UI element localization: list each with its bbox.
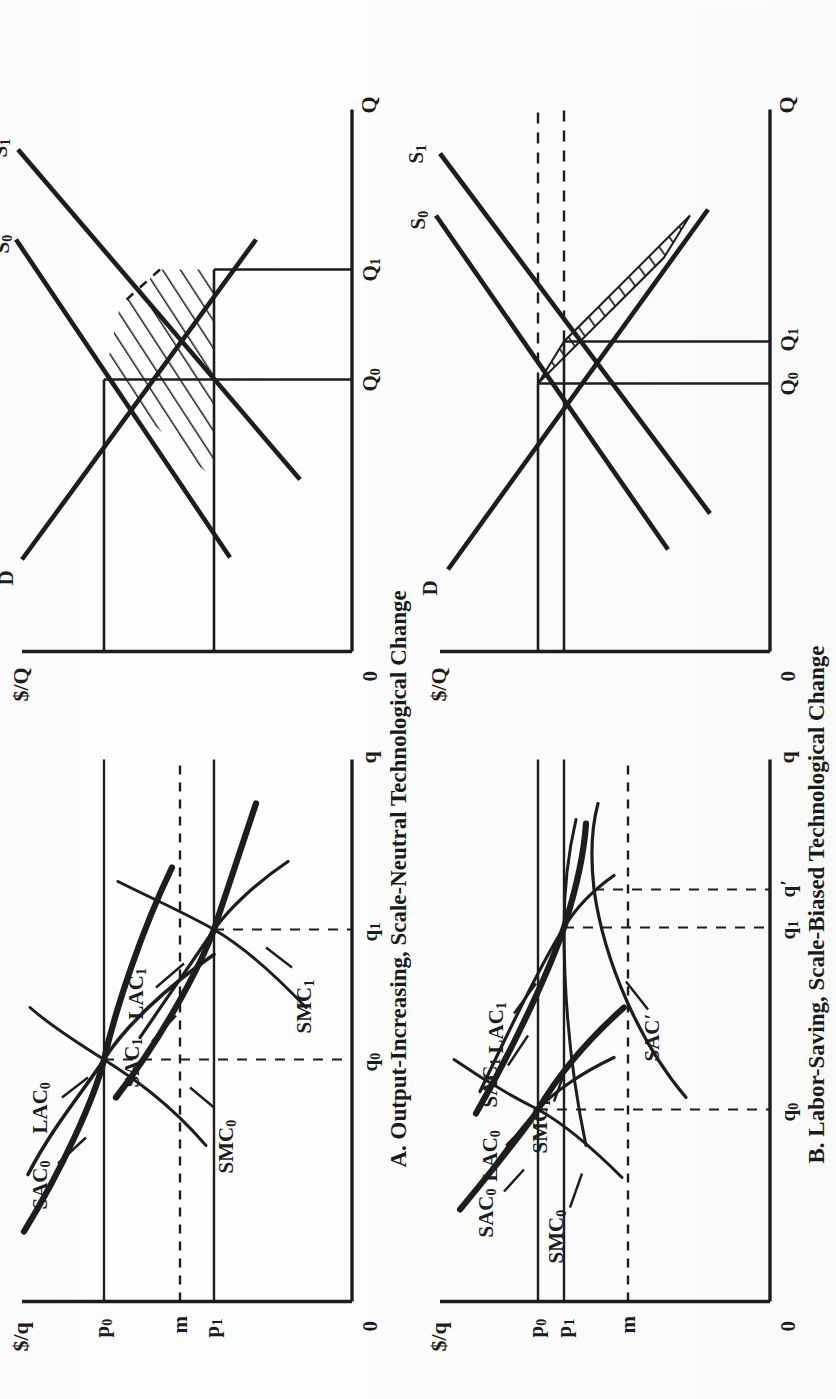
panel-b-firm-svg (418, 719, 836, 1359)
y-tick-m: m (618, 1316, 639, 1334)
curve-demand (448, 209, 708, 569)
curve-label-sac0: SAC0 (476, 1188, 498, 1237)
curve-s0 (436, 215, 668, 549)
y-axis-label: $/q (10, 1322, 32, 1351)
curve-label-s0: S0 (408, 210, 430, 229)
curve-label-s1: S1 (0, 138, 12, 157)
curve-label-smc1: SMC1 (530, 1099, 552, 1153)
y-tick-m: m (170, 1316, 191, 1334)
y-axis-label: $/Q (428, 667, 450, 701)
curve-label-lac1: LAC1 (486, 1002, 508, 1053)
curve-sac-prime (592, 803, 686, 1097)
x-axis-label: q (358, 751, 380, 763)
curve-label-lac1: LAC1 (126, 968, 148, 1019)
panel-b-firm-chart: SAC0 LAC0 SMC0 SAC1 LAC1 SMC1 SAC′ $/q p… (418, 719, 836, 1359)
panel-a-firm-svg (0, 719, 418, 1359)
curve-label-s1: S1 (406, 144, 428, 163)
x-tick-qprime: q′ (778, 879, 799, 897)
x-tick-q1: q1 (360, 922, 382, 941)
panel-a-firm-chart: SAC0 LAC0 SAC1 LAC1 SMC0 SMC1 $/q p0 m (0, 719, 418, 1359)
y-tick-p1: p1 (202, 1318, 224, 1337)
x-axis-label: Q (776, 96, 798, 113)
curve-label-sac1: SAC1 (122, 1038, 144, 1087)
hatch-band (538, 215, 690, 383)
x-tick-q0: q0 (778, 1102, 800, 1121)
curve-label-sac-prime: SAC′ (642, 1013, 663, 1061)
curve-label-sac0: SAC0 (30, 1160, 52, 1209)
origin-label: 0 (360, 1321, 381, 1332)
curve-label-smc0: SMC0 (216, 1119, 238, 1173)
y-axis-label: $/Q (10, 667, 32, 701)
y-tick-p0: p0 (526, 1318, 548, 1337)
x-tick-Q0: Q0 (778, 372, 800, 395)
panel-b-market-svg (418, 69, 836, 709)
panel-a-market-svg (0, 69, 418, 709)
leader-sac0 (504, 1169, 524, 1191)
y-tick-p0: p0 (92, 1318, 114, 1337)
leader-smc0 (190, 1087, 214, 1107)
curve-label-lac0: LAC0 (30, 1082, 52, 1133)
y-tick-p1: p1 (554, 1318, 576, 1337)
x-tick-Q1: Q1 (360, 258, 382, 281)
panel-b-caption: B. Labor-Saving, Scale-Biased Technologi… (804, 645, 830, 1163)
curve-label-smc1: SMC1 (294, 979, 316, 1033)
x-axis-label: Q (358, 96, 380, 113)
panel-a-market-chart: $/Q 0 D S0 S1 Q0 Q1 Q (0, 69, 418, 709)
leader-sac1 (152, 1015, 176, 1041)
x-tick-q1: q1 (778, 920, 800, 939)
curve-label-demand: D (0, 570, 17, 585)
curve-label-smc0: SMC0 (546, 1209, 568, 1263)
y-axis-label: $/q (428, 1322, 450, 1351)
panel-a: SAC0 LAC0 SAC1 LAC1 SMC0 SMC1 $/q p0 m (0, 0, 418, 1399)
x-tick-Q1: Q1 (778, 328, 800, 351)
x-tick-q0: q0 (360, 1052, 382, 1071)
curve-label-sac1: SAC1 (480, 1058, 502, 1107)
panel-a-caption: A. Output-Increasing, Scale-Neutral Tech… (386, 590, 412, 1167)
leader-smc1 (266, 947, 292, 967)
leader-smc0 (570, 1173, 582, 1207)
curve-demand (22, 239, 256, 559)
curve-label-lac0: LAC0 (480, 1130, 502, 1181)
curve-label-s0: S0 (0, 234, 14, 253)
x-axis-label: q (776, 751, 798, 763)
origin-label: 0 (778, 671, 799, 682)
origin-label: 0 (360, 671, 381, 682)
panel-b-market-chart: $/Q 0 D S0 S1 Q0 Q1 Q (418, 69, 836, 709)
x-tick-Q0: Q0 (360, 368, 382, 391)
origin-label: 0 (778, 1321, 799, 1332)
panel-b: SAC0 LAC0 SMC0 SAC1 LAC1 SMC1 SAC′ $/q p… (418, 0, 836, 1399)
figure-stage: SAC0 LAC0 SAC1 LAC1 SMC0 SMC1 $/q p0 m (0, 0, 836, 1399)
curve-s1 (440, 153, 710, 513)
curve-label-demand: D (420, 580, 441, 595)
